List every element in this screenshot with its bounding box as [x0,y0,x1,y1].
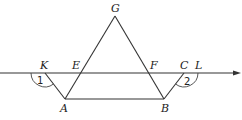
arrowhead-icon [233,71,241,76]
segment-GA [65,16,115,99]
label-C: C [180,59,189,72]
label-G: G [111,2,120,15]
geometry-diagram: G A B E F K C L 1 2 [0,0,242,120]
label-angle-1: 1 [37,75,43,86]
segment-GB [115,16,164,99]
label-A: A [59,102,68,115]
label-F: F [149,59,158,72]
label-L: L [194,59,202,72]
segment-KA [45,73,65,99]
label-angle-2: 2 [184,76,190,87]
label-E: E [71,59,80,72]
label-K: K [39,59,49,72]
segment-CB [164,73,184,99]
label-B: B [160,102,169,115]
